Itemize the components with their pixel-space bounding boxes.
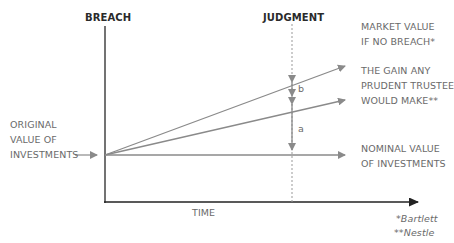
prudent-label-2: PRUDENT TRUSTEE <box>361 78 454 93</box>
prudent-label-3: WOULD MAKE** <box>361 93 438 108</box>
nominal-label-1: NOMINAL VALUE <box>361 141 440 156</box>
market-value-line <box>105 66 345 155</box>
footnote-bartlett: *Bartlett <box>396 211 438 226</box>
nominal-label-2: OF INVESTMENTS <box>361 156 446 171</box>
gap-b-label: b <box>298 81 304 96</box>
original-label-3: INVESTMENTS <box>10 147 78 162</box>
market-value-label-1: MARKET VALUE <box>361 19 435 34</box>
original-label-1: ORIGINAL <box>10 117 57 132</box>
judgment-label: JUDGMENT <box>263 10 324 25</box>
prudent-label-1: THE GAIN ANY <box>361 63 430 78</box>
original-label-2: VALUE OF <box>10 132 57 147</box>
footnote-nestle: **Nestle <box>394 225 434 240</box>
prudent-gain-line <box>105 100 345 155</box>
market-value-label-2: IF NO BREACH* <box>361 34 435 49</box>
breach-label: BREACH <box>85 10 131 25</box>
gap-a-label: a <box>298 121 304 136</box>
time-label: TIME <box>192 205 215 220</box>
